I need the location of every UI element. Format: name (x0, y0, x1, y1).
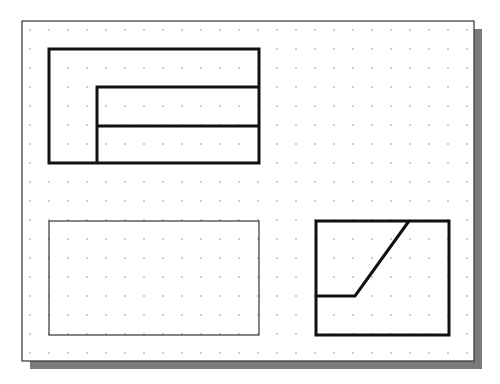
grid-dot (447, 162, 448, 163)
grid-dot (428, 29, 429, 30)
grid-dot (162, 276, 163, 277)
grid-dot (200, 295, 201, 296)
grid-dot (428, 200, 429, 201)
grid-dot (86, 257, 87, 258)
grid-dot (409, 314, 410, 315)
grid-dot (200, 352, 201, 353)
grid-dot (295, 143, 296, 144)
grid-dot (67, 276, 68, 277)
grid-dot (447, 29, 448, 30)
grid-dot (428, 352, 429, 353)
grid-dot (238, 105, 239, 106)
grid-dot (181, 67, 182, 68)
grid-dot (390, 276, 391, 277)
grid-dot (162, 295, 163, 296)
grid-dot (466, 352, 467, 353)
grid-dot (333, 162, 334, 163)
grid-dot (143, 238, 144, 239)
grid-dot (352, 257, 353, 258)
grid-dot (67, 352, 68, 353)
grid-dot (86, 105, 87, 106)
grid-dot (219, 200, 220, 201)
grid-dot (48, 200, 49, 201)
grid-dot (257, 29, 258, 30)
grid-dot (333, 200, 334, 201)
grid-dot (371, 314, 372, 315)
grid-dot (105, 67, 106, 68)
grid-dot (162, 200, 163, 201)
grid-dot (371, 29, 372, 30)
grid-dot (67, 105, 68, 106)
grid-dot (390, 200, 391, 201)
grid-dot (295, 67, 296, 68)
grid-dot (29, 276, 30, 277)
grid-dot (67, 29, 68, 30)
grid-dot (219, 181, 220, 182)
grid-dot (276, 314, 277, 315)
grid-dot (352, 105, 353, 106)
grid-dot (29, 162, 30, 163)
grid-dot (276, 333, 277, 334)
grid-dot (333, 86, 334, 87)
grid-dot (409, 67, 410, 68)
grid-dot (67, 67, 68, 68)
grid-dot (371, 67, 372, 68)
grid-dot (409, 352, 410, 353)
drawing-canvas[interactable] (0, 0, 500, 384)
grid-dot (428, 86, 429, 87)
grid-dot (238, 143, 239, 144)
grid-dot (105, 181, 106, 182)
grid-dot (219, 238, 220, 239)
grid-dot (409, 29, 410, 30)
grid-dot (352, 67, 353, 68)
grid-dot (390, 143, 391, 144)
grid-dot (219, 29, 220, 30)
grid-dot (428, 124, 429, 125)
grid-dot (314, 29, 315, 30)
grid-dot (219, 143, 220, 144)
grid-dot (447, 200, 448, 201)
grid-dot (86, 200, 87, 201)
grid-dot (352, 314, 353, 315)
grid-dot (238, 29, 239, 30)
grid-dot (295, 105, 296, 106)
grid-dot (447, 352, 448, 353)
grid-dot (333, 181, 334, 182)
grid-dot (200, 67, 201, 68)
grid-dot (257, 352, 258, 353)
grid-dot (200, 238, 201, 239)
grid-dot (86, 181, 87, 182)
grid-dot (295, 200, 296, 201)
grid-dot (409, 181, 410, 182)
grid-dot (124, 143, 125, 144)
grid-dot (238, 238, 239, 239)
grid-dot (67, 238, 68, 239)
grid-dot (295, 352, 296, 353)
grid-dot (124, 67, 125, 68)
grid-dot (86, 314, 87, 315)
grid-dot (200, 257, 201, 258)
grid-dot (276, 86, 277, 87)
grid-dot (143, 29, 144, 30)
grid-dot (466, 219, 467, 220)
grid-dot (124, 257, 125, 258)
grid-dot (162, 29, 163, 30)
grid-dot (314, 86, 315, 87)
grid-dot (466, 143, 467, 144)
grid-dot (390, 29, 391, 30)
grid-dot (200, 181, 201, 182)
grid-dot (143, 105, 144, 106)
grid-dot (409, 200, 410, 201)
grid-dot (48, 181, 49, 182)
grid-dot (105, 295, 106, 296)
grid-dot (333, 276, 334, 277)
grid-dot (371, 276, 372, 277)
grid-dot (276, 48, 277, 49)
grid-dot (428, 295, 429, 296)
grid-dot (29, 105, 30, 106)
grid-dot (428, 67, 429, 68)
grid-dot (181, 105, 182, 106)
grid-dot (181, 29, 182, 30)
grid-dot (333, 314, 334, 315)
grid-dot (295, 124, 296, 125)
